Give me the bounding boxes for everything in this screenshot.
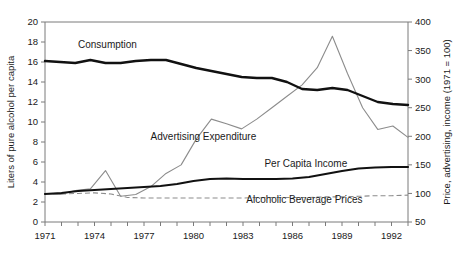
label-alcoholic-beverage-prices: Alcoholic Beverage Prices [246,194,362,205]
x-tick-label: 1989 [331,230,352,241]
y-tick-label: 0 [33,216,38,227]
label-consumption: Consumption [78,39,137,50]
x-tick-label: 1992 [381,230,402,241]
x-axis-tick-labels: 19711974197719801983198619891992 [34,230,402,241]
chart-container: 02468101214161820 5010015020025030035040… [0,0,458,260]
left-axis-tick-labels: 02468101214161820 [27,16,38,227]
x-tick-label: 1986 [282,230,303,241]
y-tick-label: 4 [33,176,38,187]
x-axis-ticks [45,222,408,226]
label-per-capita-income: Per Capita Income [264,158,347,169]
x-tick-label: 1977 [133,230,154,241]
y2-tick-label: 300 [415,74,431,85]
y-tick-label: 18 [27,36,38,47]
y2-tick-label: 350 [415,45,431,56]
y2-tick-label: 150 [415,159,431,170]
y-tick-label: 2 [33,196,38,207]
right-axis-ticks [408,22,412,222]
y2-tick-label: 400 [415,16,431,27]
y-tick-label: 20 [27,16,38,27]
series-line-per-capita-income [45,167,408,194]
y-tick-label: 8 [33,136,38,147]
x-tick-label: 1974 [84,230,105,241]
y-tick-label: 6 [33,156,38,167]
series-line-consumption [45,60,408,105]
x-tick-label: 1971 [34,230,55,241]
line-chart: 02468101214161820 5010015020025030035040… [0,0,458,260]
label-advertising-expenditure: Advertising Expenditure [151,131,257,142]
y2-tick-label: 200 [415,131,431,142]
left-axis-ticks [41,22,45,222]
right-axis-tick-labels: 50100150200250300350400 [415,16,431,227]
series-line-advertising-expenditure [45,36,408,196]
y2-tick-label: 250 [415,102,431,113]
y2-tick-label: 100 [415,188,431,199]
x-tick-label: 1980 [183,230,204,241]
y-tick-label: 12 [27,96,38,107]
x-tick-label: 1983 [232,230,253,241]
left-axis-title: Liters of pure alcohol per capita [5,55,16,188]
y2-tick-label: 50 [415,216,426,227]
right-axis-title: Price, advertising, income (1971 = 100) [441,39,452,205]
y-tick-label: 10 [27,116,38,127]
y-tick-label: 16 [27,56,38,67]
y-tick-label: 14 [27,76,38,87]
